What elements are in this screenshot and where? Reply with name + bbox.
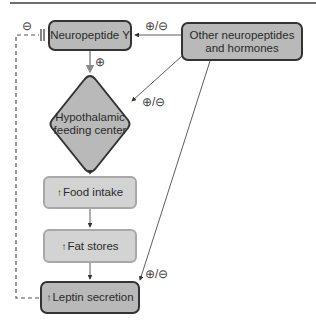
- food-intake-label: Food intake: [63, 186, 123, 199]
- food-intake-box: ↑ Food intake: [43, 176, 137, 209]
- fat-stores-box: ↑ Fat stores: [43, 229, 137, 263]
- leptin-secretion-label: Leptin secretion: [52, 291, 133, 304]
- leptin-to-npy-inhibition-sign: ⊖: [22, 20, 32, 32]
- leptin-to-npy-feedback-line: [16, 35, 39, 298]
- npy-to-hypothalamic-sign: ⊕: [95, 56, 105, 68]
- neuropeptide-y-label: Neuropeptide Y: [50, 29, 130, 42]
- leptin-secretion-box: ↑ Leptin secretion: [40, 281, 140, 314]
- neuropeptide-y-box: Neuropeptide Y: [48, 20, 132, 51]
- other-neuropeptides-label-line1: Other neuropeptides: [190, 29, 295, 42]
- increase-arrow-icon: ↑: [46, 291, 51, 304]
- other-to-npy-sign: ⊕/⊖: [145, 20, 168, 32]
- hypothalamic-feeding-center-label: Hypothalamic feeding center: [50, 111, 130, 137]
- hypothalamic-label-line1: Hypothalamic: [50, 111, 130, 124]
- other-neuropeptides-label-line2: and hormones: [205, 42, 279, 55]
- fat-stores-label: Fat stores: [67, 240, 118, 253]
- other-to-leptin-arrow: [140, 61, 210, 280]
- hypothalamic-label-line2: feeding center: [50, 124, 130, 137]
- other-neuropeptides-box: Other neuropeptides and hormones: [181, 22, 303, 61]
- increase-arrow-icon: ↑: [57, 186, 62, 199]
- other-to-hypothalamic-sign: ⊕/⊖: [142, 96, 165, 108]
- increase-arrow-icon: ↑: [61, 240, 66, 253]
- other-to-leptin-sign: ⊕/⊖: [145, 268, 168, 280]
